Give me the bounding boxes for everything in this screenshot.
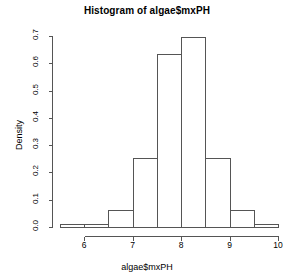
x-tick-label: 7 (123, 240, 143, 250)
x-tick-label: 6 (74, 240, 94, 250)
y-tick-label: 0.3 (26, 139, 46, 148)
y-tick-label: 0.0 (26, 221, 46, 230)
x-axis-label: algae$mxPH (0, 262, 294, 272)
histogram-bar (109, 210, 133, 227)
histogram-bar (157, 54, 181, 227)
y-axis (49, 37, 53, 228)
histogram-figure: Histogram of algae$mxPH 0.00.10.20.30.40… (0, 0, 294, 280)
y-tick-label-text: 0.6 (32, 56, 41, 67)
y-tick-label-text: 0.7 (32, 29, 41, 40)
histogram-bar (254, 225, 278, 228)
y-tick-label: 0.2 (26, 166, 46, 175)
y-axis-label-text: Density (14, 120, 24, 150)
bars-layer (60, 37, 278, 227)
y-tick-label: 0.4 (26, 112, 46, 121)
y-tick-label-text: 0.0 (32, 220, 41, 231)
x-tick-label: 9 (220, 240, 240, 250)
y-tick-label-text: 0.5 (32, 84, 41, 95)
histogram-bar (60, 224, 84, 227)
y-tick-label: 0.7 (26, 30, 46, 39)
y-tick-label-text: 0.2 (32, 165, 41, 176)
y-axis-label: Density (13, 100, 25, 170)
histogram-bar (230, 210, 254, 227)
histogram-bar (133, 158, 157, 227)
y-tick-label-text: 0.3 (32, 138, 41, 149)
x-tick-label: 8 (171, 240, 191, 250)
y-tick-label: 0.5 (26, 85, 46, 94)
y-tick-label: 0.1 (26, 194, 46, 203)
y-tick-label-text: 0.4 (32, 111, 41, 122)
histogram-bar (85, 224, 109, 227)
histogram-bar (206, 158, 230, 227)
y-tick-label-text: 0.1 (32, 193, 41, 204)
histogram-bar (182, 37, 206, 227)
y-tick-label: 0.6 (26, 57, 46, 66)
x-tick-label: 10 (268, 240, 288, 250)
